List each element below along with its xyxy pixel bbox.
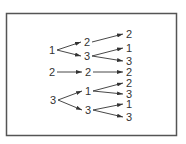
node-label: 3 bbox=[50, 94, 56, 106]
arrow-edge bbox=[92, 34, 123, 42]
node-label: 1 bbox=[126, 42, 132, 54]
node-label: 2 bbox=[85, 66, 91, 78]
arrow-edge bbox=[93, 110, 123, 117]
arrow-edge bbox=[58, 91, 82, 100]
nodes: 1232321321322313 bbox=[49, 28, 132, 123]
arrow-edge bbox=[57, 50, 81, 56]
tree-diagram: 1232321321322313 bbox=[0, 0, 186, 144]
node-label: 1 bbox=[49, 44, 55, 56]
arrow-edge bbox=[58, 100, 82, 110]
node-label: 2 bbox=[49, 66, 55, 78]
arrow-edge bbox=[93, 104, 123, 110]
arrow-edge bbox=[93, 83, 123, 91]
arrow-edge bbox=[92, 56, 123, 61]
arrow-edge bbox=[92, 48, 123, 56]
node-label: 3 bbox=[85, 104, 91, 116]
node-label: 3 bbox=[84, 50, 90, 62]
node-label: 1 bbox=[85, 85, 91, 97]
node-label: 2 bbox=[126, 28, 132, 40]
arrow-edge bbox=[57, 42, 81, 50]
arrow-edge bbox=[93, 91, 123, 94]
node-label: 3 bbox=[126, 111, 132, 123]
node-label: 1 bbox=[126, 98, 132, 110]
node-label: 2 bbox=[84, 36, 90, 48]
diagram-frame bbox=[7, 14, 177, 136]
